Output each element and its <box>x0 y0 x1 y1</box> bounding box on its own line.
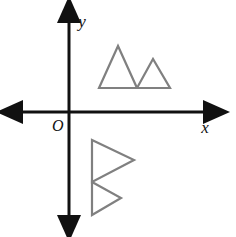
coordinate-plane-figure: x y O <box>0 0 236 237</box>
origin-label: O <box>52 117 64 134</box>
figure-canvas: x y O <box>0 0 236 237</box>
y-axis-label: y <box>76 12 86 31</box>
x-axis-label: x <box>200 118 209 137</box>
